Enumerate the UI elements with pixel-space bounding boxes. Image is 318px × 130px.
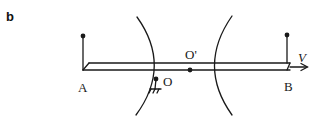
post-a-tip-dot [81,34,86,39]
label-o: O [163,74,172,89]
rod-right-bevel [287,63,290,70]
right-arc [215,16,233,115]
rod-left-bevel [83,63,89,70]
diagram-canvas: b A B O O' V [0,0,318,130]
pivot-o-dot [154,77,159,82]
label-a: A [78,80,88,95]
center-o-prime-dot [188,68,193,73]
left-arc [136,17,154,115]
label-o-prime: O' [185,47,197,62]
label-velocity: V [298,50,308,65]
label-b: B [284,79,293,94]
panel-label: b [6,9,14,24]
post-b-tip-dot [285,33,290,38]
